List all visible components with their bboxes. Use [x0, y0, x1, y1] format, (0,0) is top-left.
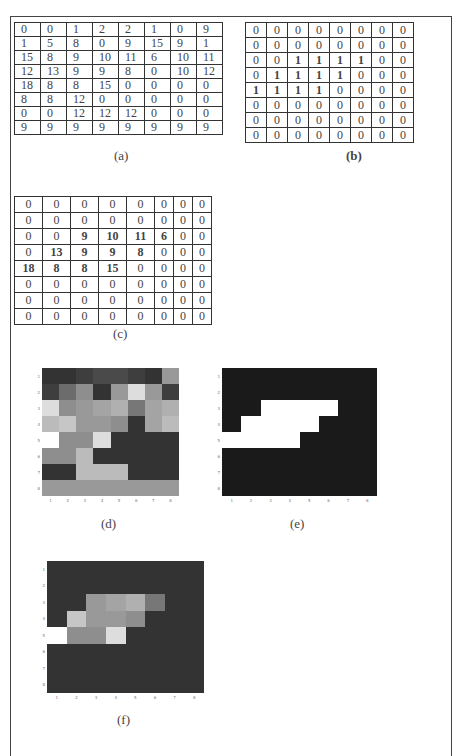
matrix-cell: 0: [246, 38, 267, 53]
pixel: [280, 368, 299, 384]
y-axis-ticks-d: 12345678: [34, 368, 40, 496]
axis-tick-label: 2: [214, 390, 220, 395]
matrix-cell: 8: [15, 93, 41, 107]
matrix-cell: 0: [309, 128, 330, 143]
pixel: [145, 448, 162, 464]
matrix-cell: 9: [119, 37, 145, 51]
pixel: [86, 561, 106, 578]
matrix-row: 00122109: [15, 23, 223, 37]
pixel: [280, 464, 299, 480]
pixel: [338, 464, 357, 480]
pixel: [319, 416, 338, 432]
matrix-cell: 0: [288, 38, 309, 53]
matrix-cell: 0: [197, 107, 223, 121]
matrix-cell: 0: [309, 113, 330, 128]
matrix-cell: 0: [246, 98, 267, 113]
matrix-cell: 1: [309, 68, 330, 83]
pixel: [319, 464, 338, 480]
axis-tick-label: 2: [250, 498, 253, 503]
pixel: [261, 400, 280, 416]
pixel: [222, 416, 241, 432]
pixel: [162, 416, 179, 432]
pixel: [162, 368, 179, 384]
matrix-cell: 0: [246, 68, 267, 83]
matrix-row: 00000000: [246, 128, 414, 143]
matrix-cell: 1: [15, 37, 41, 51]
pixel: [93, 432, 110, 448]
pixel: [128, 480, 145, 496]
pixel: [42, 464, 59, 480]
axis-tick-label: 7: [173, 695, 176, 700]
axis-tick-label: 1: [39, 567, 45, 572]
pixel: [145, 627, 165, 644]
pixel: [111, 384, 128, 400]
pixel: [261, 464, 280, 480]
pixel: [59, 368, 76, 384]
matrix-cell: 0: [393, 68, 414, 83]
pixel: [42, 480, 59, 496]
matrix-cell: 15: [145, 37, 171, 51]
pixel: [126, 644, 146, 661]
matrix-cell: 1: [330, 53, 351, 68]
axis-tick-label: 5: [214, 438, 220, 443]
matrix-cell: 0: [193, 213, 212, 229]
matrix-cell: 12: [197, 65, 223, 79]
caption-a: (a): [114, 148, 128, 164]
matrix-cell: 0: [155, 197, 174, 213]
pixel: [241, 384, 260, 400]
axis-tick-label: 1: [214, 374, 220, 379]
axis-tick-label: 7: [39, 666, 45, 671]
pixel: [42, 448, 59, 464]
pixel: [338, 480, 357, 496]
matrix-cell: 0: [267, 38, 288, 53]
pixel: [222, 368, 241, 384]
pixel: [165, 660, 185, 677]
matrix-cell: 12: [93, 107, 119, 121]
matrix-row: 1589101161011: [15, 51, 223, 65]
pixel: [86, 660, 106, 677]
axis-tick-label: 5: [34, 438, 40, 443]
matrix-cell: 0: [330, 113, 351, 128]
matrix-cell: 0: [267, 23, 288, 38]
pixel: [319, 432, 338, 448]
pixel: [338, 448, 357, 464]
matrix-cell: 0: [351, 128, 372, 143]
pixel: [145, 400, 162, 416]
caption-c: (c): [113, 326, 127, 342]
matrix-cell: 0: [246, 113, 267, 128]
matrix-row: 00000000: [15, 213, 212, 229]
matrix-cell: 6: [145, 51, 171, 65]
pixel: [42, 400, 59, 416]
pixel: [128, 400, 145, 416]
axis-tick-label: 4: [289, 498, 292, 503]
matrix-cell: 0: [288, 128, 309, 143]
matrix-cell: 18: [15, 79, 41, 93]
matrix-cell: 0: [267, 53, 288, 68]
matrix-cell: 1: [288, 83, 309, 98]
matrix-cell: 0: [15, 309, 43, 325]
pixel: [86, 644, 106, 661]
matrix-cell: 9: [197, 23, 223, 37]
pixel: [42, 384, 59, 400]
matrix-cell: 0: [15, 293, 43, 309]
matrix-cell: 0: [99, 197, 127, 213]
axis-tick-label: 1: [34, 374, 40, 379]
matrix-cell: 0: [372, 128, 393, 143]
pixel: [106, 644, 126, 661]
axis-tick-label: 8: [34, 486, 40, 491]
pixel: [93, 368, 110, 384]
matrix-row: 00000000: [15, 293, 212, 309]
pixel: [47, 627, 67, 644]
pixel: [162, 384, 179, 400]
pixel: [76, 464, 93, 480]
pixel: [111, 416, 128, 432]
matrix-cell: 0: [99, 293, 127, 309]
matrix-cell: 0: [43, 197, 71, 213]
pixel: [128, 432, 145, 448]
pixel: [184, 611, 204, 628]
pixel: [67, 677, 87, 694]
matrix-cell: 0: [155, 213, 174, 229]
matrix-row: 0091011600: [15, 229, 212, 245]
pixel: [126, 611, 146, 628]
matrix-cell: 0: [393, 53, 414, 68]
